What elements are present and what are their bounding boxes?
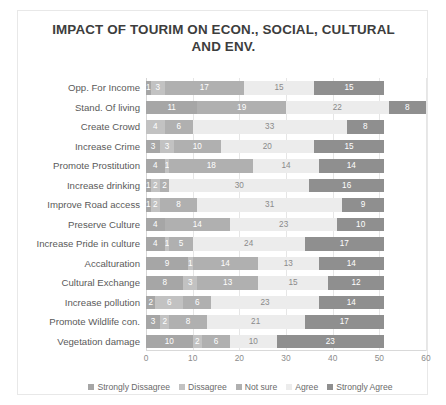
bar-segment[interactable]: 15 [314, 81, 384, 95]
legend-item[interactable]: Not sure [236, 382, 277, 392]
bar-row[interactable]: Stand. Of living11019228 [146, 101, 426, 115]
bar-segment[interactable]: 31 [197, 198, 342, 212]
bar-value-label: 17 [340, 317, 349, 326]
bar-row[interactable]: Increase Crime33102015 [146, 140, 426, 154]
legend-item[interactable]: Strongly Dissagree [88, 382, 170, 392]
bar-row[interactable]: Cultural Exchange83131512 [146, 276, 426, 290]
bar-row[interactable]: Increase pollution2662314 [146, 296, 426, 310]
legend-swatch-icon [179, 384, 185, 390]
bar-segment[interactable]: 19 [197, 101, 286, 115]
bar-segment[interactable]: 6 [155, 296, 183, 310]
bar-row[interactable]: Increase drinking1223016 [146, 179, 426, 193]
bar-segment[interactable]: 14 [319, 296, 384, 310]
bar-segment[interactable]: 15 [244, 81, 314, 95]
bar-segment[interactable]: 21 [207, 315, 305, 329]
bar-segment[interactable]: 11 [146, 101, 197, 115]
bar-segment[interactable]: 8 [389, 101, 426, 115]
bar-segment[interactable]: 6 [202, 335, 230, 349]
bar-segment[interactable]: 10 [146, 335, 193, 349]
bar-value-label: 11 [167, 103, 176, 112]
bar-row[interactable]: Opp. For Income13171515 [146, 81, 426, 95]
bar-value-label: 23 [279, 220, 288, 229]
bar-segment[interactable]: 4 [146, 120, 165, 134]
legend-label: Not sure [245, 382, 277, 392]
bar-segment[interactable]: 3 [151, 81, 165, 95]
bar-segment[interactable]: 9 [342, 198, 384, 212]
bar-row[interactable]: Create Crowd046338 [146, 120, 426, 134]
bar-segment[interactable]: 23 [230, 218, 337, 232]
bar-row[interactable]: Preserve Culture40142310 [146, 218, 426, 232]
bar-value-label: 13 [284, 259, 293, 268]
bar-segment[interactable]: 17 [305, 237, 384, 251]
bar-segment[interactable]: 23 [277, 335, 384, 349]
bar-segment[interactable]: 4 [146, 237, 165, 251]
bar-row[interactable]: Vegetation damage10261023 [146, 335, 426, 349]
bar-segment[interactable]: 2 [160, 179, 169, 193]
bar-value-label: 10 [165, 337, 174, 346]
bar-segment[interactable]: 8 [160, 198, 197, 212]
legend-item[interactable]: Dissagree [179, 382, 227, 392]
bar-segment[interactable]: 8 [146, 276, 183, 290]
bar-segment[interactable]: 23 [211, 296, 318, 310]
bar-segment[interactable]: 13 [197, 276, 258, 290]
bar-segment[interactable]: 17 [305, 315, 384, 329]
bar-segment[interactable]: 8 [169, 315, 206, 329]
x-tick-label: 60 [421, 353, 430, 363]
bar-segment[interactable]: 4 [146, 218, 165, 232]
bar-value-label: 8 [162, 278, 167, 287]
bar-segment[interactable]: 18 [169, 159, 253, 173]
bar-segment[interactable]: 2 [193, 335, 202, 349]
bar-segment[interactable]: 12 [328, 276, 384, 290]
bar-segment[interactable]: 2 [151, 198, 160, 212]
bar-segment[interactable]: 4 [146, 159, 165, 173]
bar-segment[interactable]: 14 [319, 257, 384, 271]
category-label: Opp. For Income [68, 81, 146, 95]
bar-segment[interactable]: 10 [230, 335, 277, 349]
x-tick-label: 0 [144, 353, 149, 363]
bar-segment[interactable]: 20 [221, 140, 314, 154]
bar-segment[interactable]: 3 [160, 140, 174, 154]
bar-value-label: 15 [344, 83, 353, 92]
bar-row[interactable]: Increase Pride in culture4152417 [146, 237, 426, 251]
bar-segment[interactable]: 14 [165, 218, 230, 232]
bar-segment[interactable]: 3 [146, 315, 160, 329]
bar-segment[interactable]: 9 [146, 257, 188, 271]
bar-segment[interactable]: 2 [160, 315, 169, 329]
legend-item[interactable]: Strongly Agree [327, 382, 392, 392]
bar-segment[interactable]: 14 [193, 257, 258, 271]
bar-segment[interactable]: 15 [258, 276, 328, 290]
bar-segment[interactable]: 30 [169, 179, 309, 193]
bar-segment[interactable]: 8 [347, 120, 384, 134]
bar-segment[interactable]: 2 [151, 179, 160, 193]
bar-segment[interactable]: 22 [286, 101, 389, 115]
bar-row[interactable]: Promote Wildlife con.3282117 [146, 315, 426, 329]
bar-value-label: 3 [165, 142, 170, 151]
legend-swatch-icon [327, 384, 333, 390]
bar-value-label: 8 [176, 200, 181, 209]
bar-value-label: 3 [151, 317, 156, 326]
bar-segment[interactable]: 6 [165, 120, 193, 134]
bar-row[interactable]: Accalturation91141314 [146, 257, 426, 271]
bar-segment[interactable]: 3 [183, 276, 197, 290]
bar-value-label: 33 [265, 122, 274, 131]
legend-item[interactable]: Agree [286, 382, 318, 392]
bar-segment[interactable]: 15 [314, 140, 384, 154]
bar-segment[interactable]: 6 [183, 296, 211, 310]
bar-segment[interactable]: 10 [337, 218, 384, 232]
bar-segment[interactable]: 33 [193, 120, 347, 134]
bar-segment[interactable]: 24 [193, 237, 305, 251]
bar-row[interactable]: Improve Road access128319 [146, 198, 426, 212]
bar-segment[interactable]: 5 [169, 237, 192, 251]
bar-segment[interactable]: 14 [253, 159, 318, 173]
bar-value-label: 4 [153, 161, 158, 170]
bar-segment[interactable]: 13 [258, 257, 319, 271]
bar-segment[interactable]: 2 [146, 296, 155, 310]
bar-segment[interactable]: 3 [146, 140, 160, 154]
bar-row[interactable]: Promote Prostitution41181414 [146, 159, 426, 173]
bar-value-label: 3 [151, 142, 156, 151]
bar-value-label: 17 [200, 83, 209, 92]
bar-segment[interactable]: 17 [165, 81, 244, 95]
bar-segment[interactable]: 10 [174, 140, 221, 154]
bar-segment[interactable]: 14 [319, 159, 384, 173]
bar-segment[interactable]: 16 [309, 179, 384, 193]
